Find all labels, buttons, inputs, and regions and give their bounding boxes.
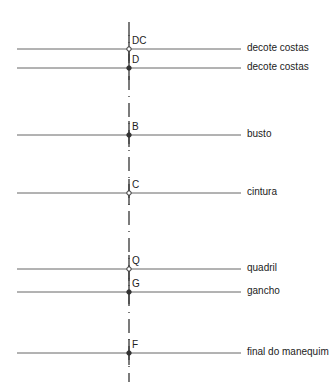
level-label: decote costas [247, 62, 309, 72]
point-marker-icon [127, 191, 131, 195]
point-marker-icon [127, 47, 131, 51]
level-label: busto [247, 129, 271, 139]
point-marker-icon [127, 290, 131, 294]
level-label: final do manequim [247, 347, 329, 357]
point-marker-icon [127, 66, 131, 70]
point-label: C [132, 180, 139, 190]
level-label: cintura [247, 187, 277, 197]
point-label: B [132, 122, 139, 132]
point-label: Q [132, 256, 140, 266]
level-label: quadril [247, 263, 277, 273]
level-label: decote costas [247, 43, 309, 53]
point-label: D [132, 55, 139, 65]
point-marker-icon [127, 267, 131, 271]
point-label: G [132, 279, 140, 289]
level-label: gancho [247, 286, 280, 296]
point-label: F [132, 340, 138, 350]
point-label: DC [132, 36, 146, 46]
point-marker-icon [127, 351, 131, 355]
point-marker-icon [127, 133, 131, 137]
